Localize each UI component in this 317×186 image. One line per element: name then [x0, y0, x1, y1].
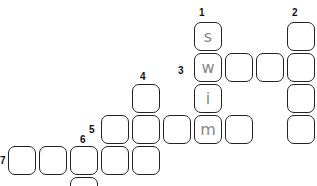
- clue-number: 6: [80, 134, 86, 145]
- crossword-cell[interactable]: [287, 115, 315, 144]
- clue-number: 2: [292, 7, 298, 18]
- crossword-cell[interactable]: [225, 115, 253, 144]
- crossword-cell[interactable]: [132, 84, 160, 113]
- clue-number: 7: [0, 155, 6, 166]
- clue-number: 5: [89, 124, 95, 135]
- crossword-cell[interactable]: w: [194, 53, 222, 82]
- crossword-cell[interactable]: [287, 84, 315, 113]
- crossword-cell[interactable]: [256, 53, 284, 82]
- crossword-cell[interactable]: [101, 115, 129, 144]
- crossword-cell[interactable]: s: [194, 22, 222, 51]
- crossword-cell[interactable]: [8, 146, 36, 175]
- crossword-cell[interactable]: [287, 22, 315, 51]
- crossword-cell[interactable]: [39, 146, 67, 175]
- crossword-cell[interactable]: [70, 146, 98, 175]
- crossword-cell[interactable]: [70, 177, 98, 186]
- clue-number: 4: [140, 71, 146, 82]
- crossword-cell[interactable]: m: [194, 115, 222, 144]
- crossword-cell[interactable]: i: [194, 84, 222, 113]
- crossword-cell[interactable]: [101, 146, 129, 175]
- crossword-cell[interactable]: [225, 53, 253, 82]
- clue-number: 3: [178, 65, 184, 76]
- clue-number: 1: [199, 7, 205, 18]
- crossword-cell[interactable]: [132, 146, 160, 175]
- crossword-cell[interactable]: [132, 115, 160, 144]
- crossword-cell[interactable]: [287, 53, 315, 82]
- crossword-cell[interactable]: [163, 115, 191, 144]
